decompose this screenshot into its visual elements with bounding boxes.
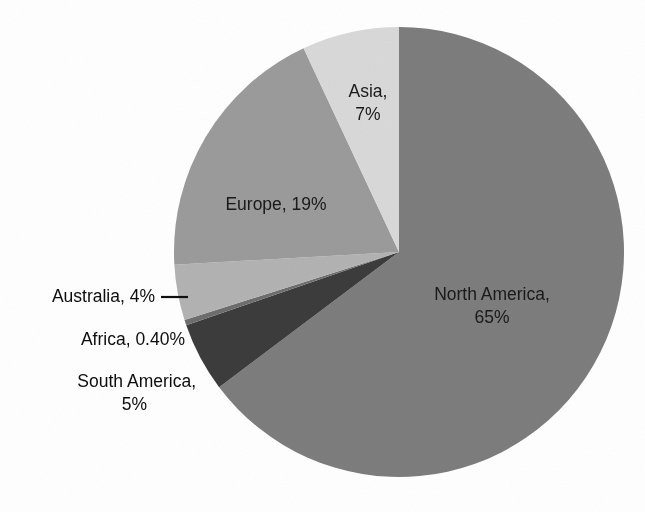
slice-label-asia-line2: 7% <box>355 104 380 124</box>
pie-slices-group <box>174 27 624 477</box>
slice-label-north-america-line1: North America, <box>434 284 550 304</box>
slice-label-south-america-line2: 5% <box>122 394 147 414</box>
slice-label-south-america-line1: South America, <box>77 371 196 391</box>
slice-label-north-america-line2: 65% <box>474 307 509 327</box>
slice-label-asia-line1: Asia, <box>349 81 388 101</box>
pie-chart-svg: North America, 65% Europe, 19% Asia, 7% … <box>0 0 645 512</box>
pie-chart-figure: North America, 65% Europe, 19% Asia, 7% … <box>0 0 645 512</box>
slice-label-europe: Europe, 19% <box>225 194 326 214</box>
slice-label-africa: Africa, 0.40% <box>81 329 185 349</box>
slice-label-australia: Australia, 4% <box>52 286 155 306</box>
